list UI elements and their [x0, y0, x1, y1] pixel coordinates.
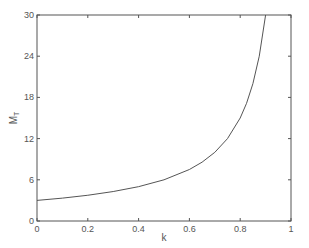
y-axis-label-main: M — [8, 116, 19, 124]
y-tick-label: 0 — [29, 216, 34, 226]
series-line — [37, 15, 266, 200]
series-layer — [37, 15, 266, 200]
x-tick-label: 0.2 — [82, 224, 95, 234]
chart: 00.20.40.60.81 0612182430 k MT — [0, 0, 309, 248]
x-axis-ticks: 00.20.40.60.81 — [34, 15, 293, 234]
y-tick-label: 24 — [24, 51, 34, 61]
y-axis-label-subscript: T — [13, 111, 20, 116]
y-axis-label: MT — [8, 111, 20, 124]
y-tick-label: 6 — [29, 175, 34, 185]
y-tick-label: 12 — [24, 134, 34, 144]
x-tick-label: 0.6 — [183, 224, 196, 234]
y-tick-label: 30 — [24, 10, 34, 20]
axes-box — [37, 15, 291, 221]
x-tick-label: 0.8 — [234, 224, 247, 234]
x-tick-label: 0 — [34, 224, 39, 234]
x-tick-label: 0.4 — [132, 224, 145, 234]
x-tick-label: 1 — [288, 224, 293, 234]
y-tick-label: 18 — [24, 92, 34, 102]
plot-area — [37, 15, 291, 221]
x-axis-label: k — [162, 232, 168, 243]
y-axis-ticks: 0612182430 — [24, 10, 291, 226]
